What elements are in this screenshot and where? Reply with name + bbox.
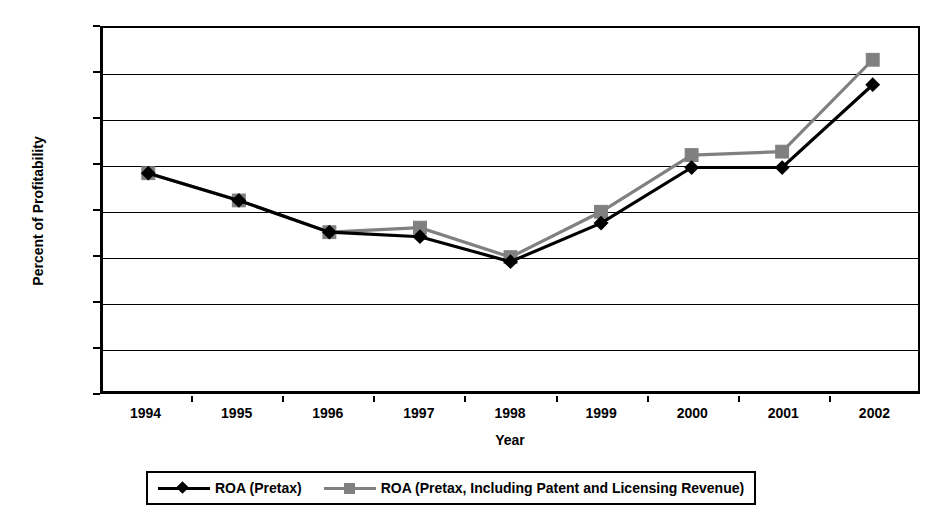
diamond-marker-icon xyxy=(158,481,210,495)
chart-legend: ROA (Pretax) ROA (Pretax, Including Pate… xyxy=(146,471,756,505)
y-axis-tick-mark xyxy=(93,163,100,165)
x-axis-tick-label: 1998 xyxy=(475,405,545,421)
data-point-square xyxy=(685,149,698,162)
y-axis-tick-mark xyxy=(93,71,100,73)
y-axis-tick-mark xyxy=(93,117,100,119)
x-axis-tick-mark xyxy=(556,396,558,402)
legend-item-roa-pretax: ROA (Pretax) xyxy=(158,480,302,496)
legend-label: ROA (Pretax) xyxy=(215,480,302,496)
line-chart: Percent of Profitability 0246810121416 1… xyxy=(0,0,939,518)
y-axis-title: Percent of Profitability xyxy=(30,81,46,341)
y-axis-tick-mark xyxy=(93,25,100,27)
x-axis-tick-label: 1996 xyxy=(293,405,363,421)
x-axis-tick-label: 2001 xyxy=(748,405,818,421)
x-axis-tick-mark xyxy=(282,396,284,402)
x-axis-tick-label: 2000 xyxy=(657,405,727,421)
y-axis-tick-mark xyxy=(93,347,100,349)
x-axis-tick-mark xyxy=(647,396,649,402)
series-layer xyxy=(103,28,918,391)
square-marker-icon xyxy=(324,481,376,495)
legend-label: ROA (Pretax, Including Patent and Licens… xyxy=(381,480,745,496)
x-axis-tick-mark xyxy=(464,396,466,402)
x-axis-tick-label: 1999 xyxy=(566,405,636,421)
series-line xyxy=(148,85,872,262)
x-axis-tick-label: 1997 xyxy=(384,405,454,421)
x-axis-tick-label: 2002 xyxy=(839,405,909,421)
x-axis-title: Year xyxy=(100,432,920,448)
x-axis: 199419951996199719981999200020012002 Yea… xyxy=(100,396,920,456)
x-axis-tick-label: 1994 xyxy=(111,405,181,421)
x-axis-tick-mark xyxy=(373,396,375,402)
x-axis-tick-mark xyxy=(829,396,831,402)
y-axis-tick-mark xyxy=(93,301,100,303)
y-axis-tick-mark xyxy=(93,209,100,211)
y-axis-tick-mark xyxy=(93,393,100,395)
data-point-square xyxy=(866,53,879,66)
legend-item-roa-pretax-patent: ROA (Pretax, Including Patent and Licens… xyxy=(324,480,745,496)
x-axis-tick-mark xyxy=(738,396,740,402)
data-point-diamond xyxy=(684,160,699,175)
series-line xyxy=(148,60,872,257)
data-point-square xyxy=(776,145,789,158)
plot-area xyxy=(100,26,920,394)
y-axis-tick-mark xyxy=(93,255,100,257)
x-axis-tick-mark xyxy=(191,396,193,402)
x-axis-tick-label: 1995 xyxy=(202,405,272,421)
